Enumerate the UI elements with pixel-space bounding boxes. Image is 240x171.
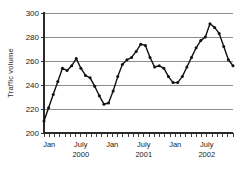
data-point	[66, 69, 69, 72]
data-point	[190, 56, 193, 59]
data-point	[227, 58, 230, 61]
data-point	[199, 39, 202, 42]
data-point	[93, 85, 96, 88]
x-tick-label: Jan	[106, 140, 118, 149]
data-point	[232, 64, 235, 67]
data-point	[130, 56, 133, 59]
data-point	[222, 45, 225, 48]
x-tick-label: July	[200, 140, 214, 149]
data-point	[89, 76, 92, 79]
y-tick-label: 300	[26, 9, 40, 18]
data-point	[52, 93, 55, 96]
data-point	[75, 57, 78, 60]
data-point	[158, 64, 161, 67]
data-point	[149, 56, 152, 59]
y-tick-label: 280	[26, 33, 40, 42]
data-point	[135, 50, 138, 53]
data-point	[47, 106, 50, 109]
y-tick-label: 220	[26, 105, 40, 114]
data-point	[107, 102, 110, 105]
data-point	[176, 81, 179, 84]
data-point	[102, 103, 105, 106]
data-point	[125, 58, 128, 61]
data-point	[208, 22, 211, 25]
data-point	[204, 36, 207, 39]
data-point	[139, 43, 142, 46]
traffic-volume-chart: 200220240260280300JanJuly2000JanJuly2001…	[0, 0, 240, 171]
data-point	[195, 46, 198, 49]
data-point	[185, 66, 188, 69]
y-tick-label: 240	[26, 81, 40, 90]
data-point	[121, 63, 124, 66]
x-year-label: 2000	[72, 150, 89, 159]
x-year-label: 2001	[135, 150, 152, 159]
data-point	[144, 44, 147, 47]
y-axis-title: Traffic volume	[6, 48, 15, 97]
x-year-label: 2002	[198, 150, 215, 159]
data-point	[153, 66, 156, 69]
data-point	[56, 80, 59, 83]
data-point	[162, 67, 165, 70]
data-point	[61, 67, 64, 70]
data-point	[43, 120, 46, 123]
data-point	[167, 75, 170, 78]
data-point	[70, 64, 73, 67]
data-point	[79, 67, 82, 70]
data-point	[84, 74, 87, 77]
data-point	[181, 75, 184, 78]
data-point	[116, 75, 119, 78]
y-tick-label: 260	[26, 57, 40, 66]
x-tick-label: Jan	[43, 140, 55, 149]
chart-plot-area: 200220240260280300JanJuly2000JanJuly2001…	[0, 0, 240, 171]
x-tick-label: Jan	[169, 140, 181, 149]
x-tick-label: July	[74, 140, 88, 149]
data-point	[213, 26, 216, 29]
data-point	[98, 94, 101, 97]
data-point	[218, 32, 221, 35]
y-tick-label: 200	[26, 129, 40, 138]
data-point	[172, 81, 175, 84]
data-series-line	[44, 24, 233, 121]
data-point	[112, 90, 115, 93]
x-tick-label: July	[137, 140, 151, 149]
